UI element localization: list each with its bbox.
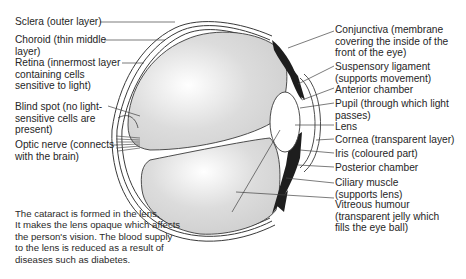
label-suspensory-ligament: Suspensory ligament (supports movement) (335, 61, 431, 84)
label-conjunctiva: Conjunctiva (membrane covering the insid… (335, 24, 448, 59)
label-choroid: Choroid (thin middle layer) (15, 34, 106, 57)
label-lens: Lens (335, 121, 357, 133)
label-retina: Retina (innermost layer containing cells… (15, 57, 120, 92)
label-anterior-chamber: Anterior chamber (335, 84, 413, 96)
label-posterior-chamber: Posterior chamber (335, 162, 418, 174)
label-optic-nerve: Optic nerve (connects with the brain) (15, 139, 114, 162)
label-blind-spot: Blind spot (no light- sensitive cells ar… (15, 101, 102, 136)
cataract-note: The cataract is formed in the lens. It m… (15, 208, 180, 265)
label-vitreous-humour: Vitreous humour (transparent jelly which… (335, 199, 439, 234)
lens-shape (270, 92, 300, 152)
label-cornea: Cornea (transparent layer) (335, 134, 454, 146)
label-sclera: Sclera (outer layer) (15, 16, 102, 28)
label-iris: Iris (coloured part) (335, 148, 418, 160)
vitreous-humour-upper (128, 32, 287, 150)
label-ciliary-muscle: Ciliary muscle (supports lens) (335, 177, 402, 200)
label-pupil: Pupil (through which light passes) (335, 98, 449, 121)
cornea-shape (300, 74, 321, 172)
